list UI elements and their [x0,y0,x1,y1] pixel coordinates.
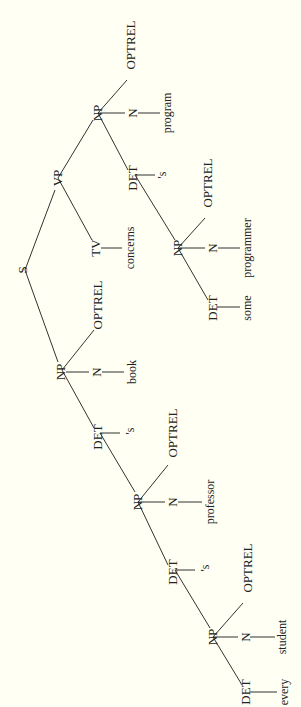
tree-edge [25,190,55,270]
tree-node-n: N [165,497,180,507]
tree-node-tv: TV [88,239,103,257]
tree-edge [138,502,168,565]
tree-node-det: DET [205,295,220,320]
tree-node-n: N [89,367,104,377]
tree-leaf-word: professor [203,480,217,525]
tree-leaf-word: 's [123,427,137,434]
tree-node-s: S [15,266,30,273]
tree-node-np: NP [90,105,105,122]
tree-node-det: DET [165,559,180,584]
tree-node-optrel: OPTREL [90,280,105,329]
tree-node-det: DET [238,679,253,704]
tree-leaf-word: book [125,360,139,384]
tree-leaf-word: some [240,295,254,320]
tree-node-optrel: OPTREL [123,20,138,69]
tree-node-n: N [205,243,220,253]
tree-edge [25,270,58,362]
tree-node-np: NP [205,629,220,646]
parse-tree-diagram: SNPVPDETNOPTRELbook'sNPDETNOPTRELprofess… [0,0,301,707]
tree-leaf-word: student [275,619,289,654]
tree-edge [175,570,210,628]
tree-edge [58,178,92,240]
tree-node-np: NP [130,494,145,511]
tree-node-optrel: OPTREL [165,408,180,457]
tree-node-n: N [238,632,253,642]
tree-node-n: N [125,108,140,118]
tree-node-optrel: OPTREL [240,543,255,592]
tree-node-det: DET [125,165,140,190]
tree-node-optrel: OPTREL [200,158,215,207]
tree-leaf-word: program [160,92,174,133]
tree-node-det: DET [90,424,105,449]
tree-leaf-word: 's [155,171,169,178]
tree-leaf-word: concerns [123,226,137,269]
tree-edge [58,120,93,178]
tree-edge [100,433,135,492]
tree-node-np: NP [53,364,68,381]
tree-node-np: NP [170,240,185,257]
tree-edge [135,175,175,240]
tree-labels: SNPVPDETNOPTRELbook'sNPDETNOPTRELprofess… [15,20,292,705]
tree-leaf-word: programmer [240,218,254,277]
tree-node-vp: VP [50,170,65,187]
parse-tree-svg: SNPVPDETNOPTRELbook'sNPDETNOPTRELprofess… [0,0,301,707]
tree-leaf-word: every [277,679,291,706]
tree-leaf-word: 's [198,564,212,571]
